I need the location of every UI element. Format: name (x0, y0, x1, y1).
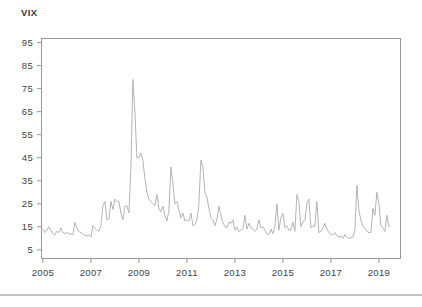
vix-line-series (43, 79, 389, 238)
x-tick-label: 2015 (272, 267, 294, 278)
y-tick-label: 25 (22, 198, 33, 209)
x-tick-label: 2019 (368, 267, 390, 278)
x-tick-label: 2011 (176, 267, 198, 278)
y-tick-label: 85 (22, 60, 33, 71)
y-tick-label: 5 (27, 244, 33, 255)
plot-frame (42, 39, 401, 259)
y-tick-label: 55 (22, 129, 33, 140)
chart-plot: 5152535455565758595200520072009201120132… (0, 0, 422, 307)
y-tick-label: 75 (22, 83, 33, 94)
y-tick-label: 45 (22, 152, 33, 163)
x-tick-label: 2017 (320, 267, 342, 278)
y-tick-label: 95 (22, 37, 33, 48)
x-tick-label: 2013 (224, 267, 246, 278)
y-tick-label: 65 (22, 106, 33, 117)
x-tick-label: 2009 (128, 267, 150, 278)
vix-chart-page: VIX 515253545556575859520052007200920112… (0, 0, 422, 307)
x-tick-label: 2007 (80, 267, 102, 278)
x-tick-label: 2005 (32, 267, 54, 278)
y-tick-label: 15 (22, 221, 33, 232)
y-tick-label: 35 (22, 175, 33, 186)
page-divider (0, 294, 422, 296)
